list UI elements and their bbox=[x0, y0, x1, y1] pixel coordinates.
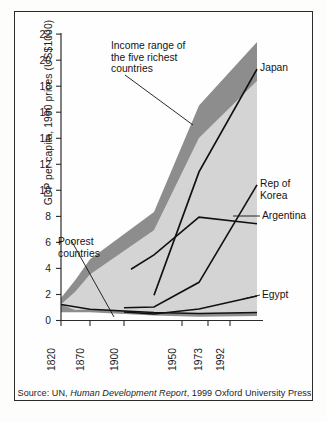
y-tick-marks bbox=[56, 34, 61, 320]
leader-income-range bbox=[125, 75, 193, 125]
y-tick-label-0: 0 bbox=[29, 315, 51, 326]
x-tick-label-1992: 1992 bbox=[215, 348, 226, 371]
x-tick-label-1820: 1820 bbox=[46, 348, 57, 371]
x-tick-label-1973: 1973 bbox=[193, 348, 204, 371]
source-suffix: , 1999 Oxford University Press bbox=[187, 388, 312, 398]
x-tick-label-1900: 1900 bbox=[109, 348, 120, 371]
y-tick-label-8: 8 bbox=[29, 211, 51, 222]
series-label-argentina: Argentina bbox=[262, 210, 306, 222]
x-tick-label-1950: 1950 bbox=[167, 348, 178, 371]
annotation-income-range: Income range of the five richest countri… bbox=[111, 40, 185, 75]
source-note: Source: UN, Human Development Report, 19… bbox=[15, 388, 314, 398]
series-label-egypt: Egypt bbox=[262, 289, 288, 301]
y-tick-label-2: 2 bbox=[29, 289, 51, 300]
x-tick-marks bbox=[61, 321, 230, 327]
y-tick-label-16: 16 bbox=[29, 107, 51, 118]
chart-panel: GDP per capita, 1990 prices (US$1000) bbox=[14, 11, 313, 401]
source-prefix: Source: UN, bbox=[18, 388, 71, 398]
annotation-poorest-countries: Poorest countries bbox=[58, 236, 100, 259]
y-tick-label-12: 12 bbox=[29, 159, 51, 170]
x-tick-label-1870: 1870 bbox=[75, 348, 86, 371]
source-title: Human Development Report bbox=[70, 388, 186, 398]
y-tick-label-22: 22 bbox=[29, 29, 51, 40]
series-label-korea: Rep of Korea bbox=[260, 178, 290, 201]
y-tick-label-10: 10 bbox=[29, 185, 51, 196]
y-tick-label-18: 18 bbox=[29, 81, 51, 92]
y-tick-label-6: 6 bbox=[29, 237, 51, 248]
y-tick-label-20: 20 bbox=[29, 55, 51, 66]
y-tick-label-14: 14 bbox=[29, 133, 51, 144]
figure-caption bbox=[16, 406, 316, 420]
band-middle bbox=[61, 81, 257, 314]
figure-container: GDP per capita, 1990 prices (US$1000) bbox=[0, 0, 327, 422]
series-label-japan: Japan bbox=[260, 62, 288, 74]
y-tick-label-4: 4 bbox=[29, 263, 51, 274]
